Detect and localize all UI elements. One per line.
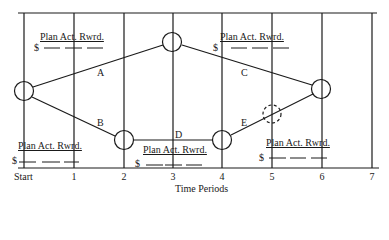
reward-header-top-left: Plan Act. Rwrd. xyxy=(40,32,104,42)
tick-1: 1 xyxy=(59,172,89,182)
edge-a xyxy=(33,45,163,87)
node-period-3 xyxy=(163,33,182,52)
edge-label-b: B xyxy=(97,118,104,128)
reward-header-bottom-middle: Plan Act. Rwrd. xyxy=(143,145,207,155)
edge-label-e: E xyxy=(241,118,247,128)
tick-3: 3 xyxy=(158,172,188,182)
currency-top-left: $ xyxy=(34,43,39,53)
edge-c xyxy=(182,45,312,85)
edge-label-a: A xyxy=(97,68,104,78)
edge-label-d: D xyxy=(175,130,182,140)
currency-bottom-left: $ xyxy=(12,156,17,166)
tick-start: Start xyxy=(14,172,36,182)
reward-header-bottom-right: Plan Act. Rwrd. xyxy=(266,138,330,148)
reward-header-bottom-left: Plan Act. Rwrd. xyxy=(18,141,82,151)
tick-7: 7 xyxy=(357,172,387,182)
axis-title: Time Periods xyxy=(175,184,228,194)
currency-bottom-middle: $ xyxy=(135,159,140,169)
tick-6: 6 xyxy=(307,172,337,182)
tick-5: 5 xyxy=(257,172,287,182)
tick-2: 2 xyxy=(109,172,139,182)
node-period-6 xyxy=(312,80,331,99)
currency-bottom-right: $ xyxy=(259,153,264,163)
currency-top-right: $ xyxy=(213,43,218,53)
tick-4: 4 xyxy=(207,172,237,182)
edge-label-c: C xyxy=(241,68,248,78)
reward-header-top-right: Plan Act. Rwrd. xyxy=(220,32,284,42)
